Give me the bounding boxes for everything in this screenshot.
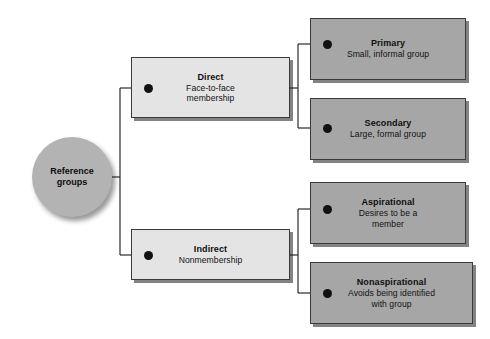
- root-node-reference-groups: Reference groups: [32, 137, 112, 217]
- node-nonaspirational: Nonaspirational Avoids being identified …: [310, 262, 473, 324]
- root-node-label: Reference groups: [50, 166, 94, 188]
- node-indirect-title: Indirect: [194, 244, 227, 255]
- node-secondary-subtitle: Large, formal group: [350, 129, 426, 139]
- bullet-nonaspirational: [323, 289, 332, 298]
- node-primary: Primary Small, informal group: [310, 18, 466, 80]
- node-direct-title: Direct: [197, 72, 223, 83]
- reference-groups-diagram: Reference groups Direct Face-to-face mem…: [0, 0, 490, 339]
- node-aspirational-title: Aspirational: [361, 197, 414, 208]
- node-nonaspirational-subtitle: Avoids being identified with group: [348, 288, 435, 308]
- node-secondary-title: Secondary: [365, 118, 412, 129]
- node-aspirational: Aspirational Desires to be a member: [310, 182, 466, 244]
- node-primary-subtitle: Small, informal group: [347, 49, 429, 59]
- node-indirect: Indirect Nonmembership: [131, 229, 290, 280]
- bullet-primary: [323, 40, 332, 49]
- node-indirect-subtitle: Nonmembership: [179, 255, 243, 265]
- bullet-indirect: [144, 251, 153, 260]
- node-nonaspirational-title: Nonaspirational: [357, 277, 427, 288]
- bullet-aspirational: [323, 205, 332, 214]
- node-aspirational-subtitle: Desires to be a member: [359, 208, 418, 228]
- node-secondary: Secondary Large, formal group: [310, 98, 466, 160]
- node-direct: Direct Face-to-face membership: [131, 57, 290, 118]
- bullet-direct: [144, 84, 153, 93]
- bullet-secondary: [323, 124, 332, 133]
- node-primary-title: Primary: [371, 38, 405, 49]
- node-direct-subtitle: Face-to-face membership: [186, 83, 235, 103]
